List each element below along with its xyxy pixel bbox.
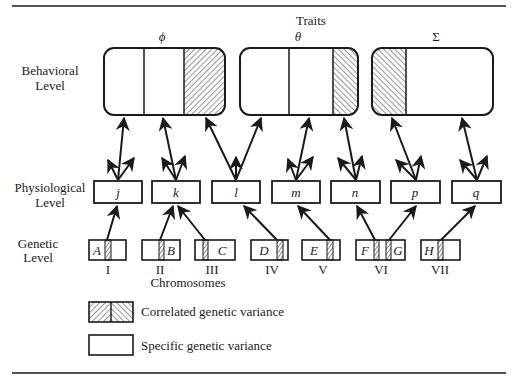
- svg-text:Correlated genetic variance: Correlated genetic variance: [141, 304, 284, 319]
- svg-text:Level: Level: [35, 195, 65, 210]
- svg-text:F: F: [360, 243, 370, 258]
- svg-text:p: p: [411, 185, 419, 200]
- genetic-level-label: Genetic Level: [18, 236, 59, 265]
- trait-sigma-label: Σ: [432, 29, 440, 44]
- trait-theta-label: θ: [295, 29, 302, 44]
- svg-text:Physiological: Physiological: [15, 180, 86, 195]
- legend-specific: Specific genetic variance: [89, 335, 272, 355]
- behavioral-level-label: Behavioral Level: [21, 63, 78, 93]
- svg-text:VI: VI: [374, 262, 388, 277]
- svg-text:q: q: [473, 185, 480, 200]
- svg-text:D: D: [258, 243, 269, 258]
- chromosome-III: [195, 240, 235, 260]
- traits-label: Traits: [296, 13, 326, 28]
- svg-text:k: k: [173, 185, 179, 200]
- physiological-level-label: Physiological Level: [15, 180, 86, 210]
- chromosomes-title: Chromosomes: [150, 275, 225, 290]
- svg-text:G: G: [393, 243, 403, 258]
- svg-text:Specific genetic variance: Specific genetic variance: [141, 338, 272, 353]
- svg-text:Behavioral: Behavioral: [21, 63, 78, 78]
- svg-text:Level: Level: [23, 250, 53, 265]
- svg-text:l: l: [234, 185, 238, 200]
- gene-to-physio-arrows: [107, 206, 475, 240]
- chromosome-IV: [251, 240, 288, 260]
- svg-text:E: E: [309, 243, 318, 258]
- behavior-genetics-diagram: Traits Behavioral Level Physiological Le…: [0, 0, 519, 382]
- svg-text:A: A: [92, 243, 101, 258]
- chromosome-V: [302, 240, 340, 260]
- svg-text:V: V: [318, 262, 328, 277]
- svg-text:VII: VII: [431, 262, 449, 277]
- svg-text:m: m: [291, 185, 300, 200]
- svg-text:Level: Level: [35, 78, 65, 93]
- trait-phi-label: ϕ: [159, 29, 166, 44]
- svg-text:I: I: [106, 262, 110, 277]
- svg-text:n: n: [352, 185, 359, 200]
- svg-text:IV: IV: [265, 262, 279, 277]
- trait-box-sigma: [372, 48, 493, 115]
- trait-box-theta: [240, 48, 358, 115]
- physio-to-behavior-arrows: [108, 118, 487, 180]
- trait-box-phi: [104, 48, 225, 115]
- svg-text:H: H: [423, 243, 434, 258]
- svg-text:C: C: [218, 243, 227, 258]
- svg-text:B: B: [167, 243, 175, 258]
- svg-text:Genetic: Genetic: [18, 236, 59, 251]
- legend-correlated: Correlated genetic variance: [89, 302, 284, 322]
